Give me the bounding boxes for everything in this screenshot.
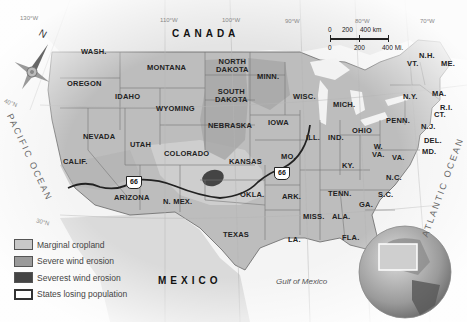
state-label-ma: MA. [432, 90, 446, 98]
state-label-ny: N.Y. [403, 93, 418, 101]
state-label-montana: MONTANA [147, 64, 186, 72]
state-label-nc: N.C. [386, 174, 402, 182]
state-label-south-dakota: SOUTHDAKOTA [215, 88, 248, 104]
state-label-sc: S.C. [378, 191, 393, 199]
state-label-ky: KY. [342, 162, 354, 170]
state-label-wyoming: WYOMING [156, 105, 195, 113]
scale-mi-400: 400 Mi. [382, 44, 403, 51]
lon-100-label: 100°W [222, 17, 240, 23]
lon-80-label: 80°W [355, 18, 370, 24]
lon-90-label: 90°W [285, 18, 300, 24]
gulf-of-mexico-label: Gulf of Mexico [276, 277, 327, 286]
state-label-okla: OKLA. [240, 191, 264, 199]
state-label-miss: MISS. [303, 213, 324, 221]
state-label-md: MD. [422, 148, 436, 156]
state-label-me: ME. [441, 60, 455, 68]
state-label-colorado: COLORADO [164, 150, 209, 158]
route-66-shield-east: 66 [274, 167, 290, 180]
country-mexico: MEXICO [158, 275, 221, 286]
lon-110-label: 110°W [160, 17, 178, 23]
scale-km-0: 0 [328, 26, 332, 33]
map-legend: Marginal cropland Severe wind erosion Se… [14, 237, 127, 303]
state-label-idaho: IDAHO [115, 93, 140, 101]
globe-inset-highlight [379, 244, 417, 270]
route-66-shield-west: 66 [126, 176, 142, 189]
state-label-mich: MICH. [333, 101, 355, 109]
legend-item-marginal-cropland: Marginal cropland [14, 237, 127, 252]
state-label-ind: IND. [328, 134, 344, 142]
legend-item-severest-wind-erosion: Severest wind erosion [14, 270, 127, 285]
dust-bowl-map: N 130°W 110°W 100°W 90°W 80°W 70°W 40°N … [0, 0, 467, 322]
legend-item-states-losing-population: States losing population [14, 287, 127, 302]
state-label-texas: TEXAS [223, 231, 249, 239]
scale-mi-200: 200 [354, 44, 365, 51]
state-label-calif: CALIF. [63, 158, 88, 166]
state-label-wash: WASH. [81, 48, 107, 56]
state-label-utah: UTAH [130, 141, 151, 149]
state-label-iowa: IOWA [268, 119, 289, 127]
state-label-minn: MINN. [257, 73, 279, 81]
state-label-wva: W.VA. [372, 143, 385, 159]
country-canada: CANADA [172, 28, 239, 39]
state-label-mo: MO. [281, 153, 296, 161]
scale-km-400: 400 km [360, 26, 381, 33]
scale-mi-0: 0 [328, 44, 332, 51]
state-label-oregon: OREGON [67, 80, 102, 88]
scale-bar: 0 200 400 km 0 200 400 Mi. [330, 26, 410, 54]
state-label-nmex: N. MEX. [163, 198, 192, 206]
lon-130-label: 130°W [20, 15, 38, 21]
state-label-nevada: NEVADA [83, 133, 115, 141]
state-label-arizona: ARIZONA [114, 194, 150, 202]
legend-swatch-severe-wind-erosion [14, 256, 33, 267]
state-label-kansas: KANSAS [229, 158, 262, 166]
state-label-ark: ARK. [282, 193, 301, 201]
state-label-nh: N.H. [419, 52, 435, 60]
state-label-penn: PENN. [386, 117, 410, 125]
state-label-va: VA. [392, 154, 405, 162]
state-label-ala: ALA. [332, 213, 350, 221]
state-label-ill: ILL. [306, 134, 320, 142]
legend-item-severe-wind-erosion: Severe wind erosion [14, 254, 127, 269]
state-label-del: DEL. [424, 137, 442, 145]
state-label-ct: CT. [434, 111, 446, 119]
state-label-la: LA. [288, 236, 301, 244]
state-label-north-dakota: NORTHDAKOTA [216, 58, 249, 74]
state-label-wisc: WISC. [293, 93, 316, 101]
state-label-nj: N.J. [421, 123, 436, 131]
scale-km-200: 200 [342, 26, 353, 33]
state-label-nebraska: NEBRASKA [208, 122, 252, 130]
state-label-tenn: TENN. [328, 190, 352, 198]
lon-70-label: 70°W [420, 18, 435, 24]
state-label-ga: GA. [359, 201, 373, 209]
legend-swatch-states-losing-population [14, 289, 33, 300]
legend-swatch-marginal-cropland [14, 239, 33, 250]
state-label-vt: VT. [407, 60, 418, 68]
state-label-fla: FLA. [342, 234, 359, 242]
state-label-ohio: OHIO [352, 127, 372, 135]
legend-swatch-severest-wind-erosion [14, 272, 33, 283]
